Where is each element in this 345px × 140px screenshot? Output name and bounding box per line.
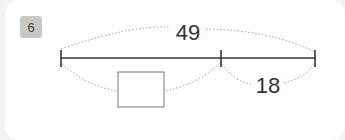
- total-label: 49: [176, 20, 200, 45]
- right-arc-left: [222, 64, 251, 84]
- total-arc-right: [206, 29, 315, 52]
- left-arc-right: [166, 63, 220, 91]
- right-arc-right: [284, 64, 314, 83]
- right-label: 18: [256, 73, 280, 98]
- answer-box[interactable]: [118, 72, 164, 107]
- left-arc-left: [62, 64, 116, 91]
- tape-diagram: 49 18: [0, 0, 337, 131]
- total-arc-left: [61, 27, 170, 49]
